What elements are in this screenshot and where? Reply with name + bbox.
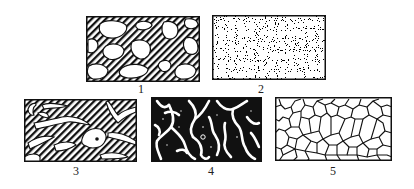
speckled-texture-graphic (212, 15, 326, 80)
granular-texture-graphic (86, 16, 200, 82)
panel-5-label: 5 (323, 165, 343, 177)
panel-2-speckled (212, 15, 326, 80)
panel-2-label: 2 (251, 83, 271, 95)
panel-4-worm-channels-black (151, 97, 262, 162)
panel-3-vermiform-hatched (24, 99, 137, 162)
vermiform-texture-graphic (24, 99, 137, 162)
panel-5-polygonal-cells (275, 97, 392, 161)
panel-1-granular-hatched (86, 16, 200, 82)
panel-3-label: 3 (66, 165, 86, 177)
panel-1-label: 1 (131, 83, 151, 95)
panel-4-label: 4 (201, 165, 221, 177)
polygonal-texture-graphic (275, 97, 392, 161)
channel-texture-graphic (151, 97, 262, 162)
